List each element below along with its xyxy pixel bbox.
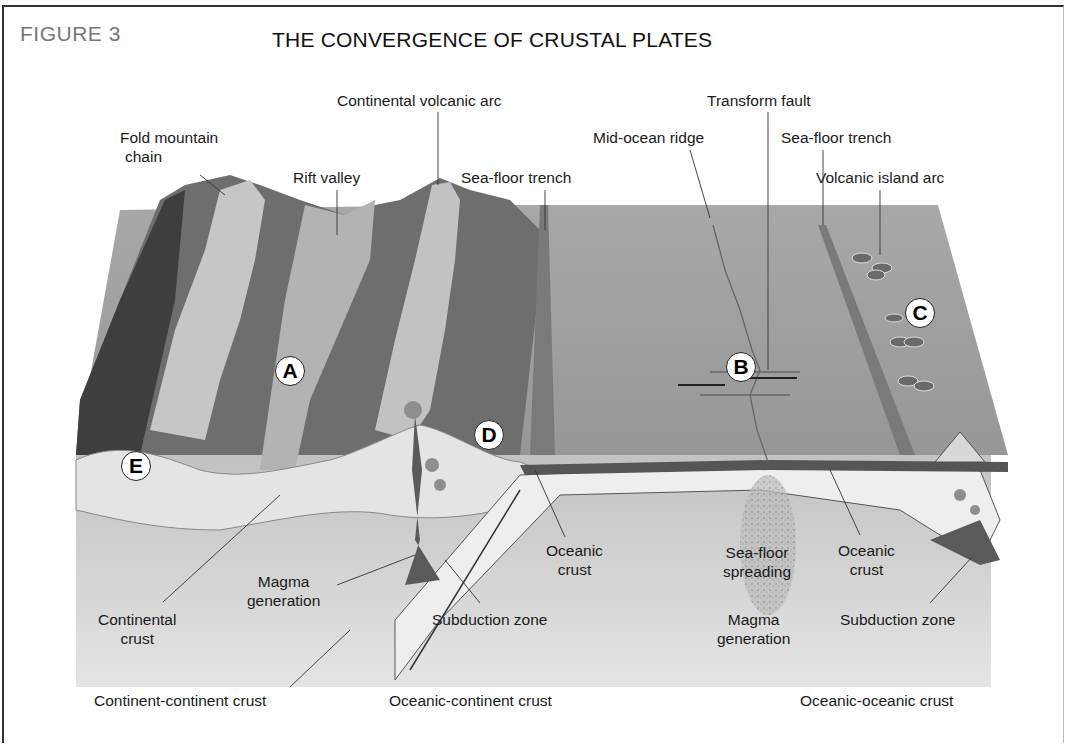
label-line: generation [717,629,790,648]
label-sea-floor-trench-left: Sea-floor trench [461,168,571,187]
marker-c: C [905,298,935,328]
label-line: crust [546,560,603,579]
marker-b: B [726,352,756,382]
label-line: Oceanic [838,541,895,560]
label-line: Fold mountain [120,128,218,147]
label-line: Magma [247,572,320,591]
label-line: Continental [98,610,176,629]
label-continental-crust: Continental crust [98,610,176,648]
label-magma-generation-left: Magma generation [247,572,320,610]
label-line: Oceanic [546,541,603,560]
label-line: generation [247,591,320,610]
label-transform-fault: Transform fault [707,91,811,110]
label-subduction-zone-right: Subduction zone [840,610,955,629]
marker-a: A [275,356,305,386]
label-mid-ocean-ridge: Mid-ocean ridge [593,128,704,147]
label-continent-continent-crust: Continent-continent crust [94,692,266,710]
label-line: chain [120,147,218,166]
label-line: Sea-floor [723,543,791,562]
marker-e: E [121,451,151,481]
label-line: crust [98,629,176,648]
label-volcanic-island-arc: Volcanic island arc [816,168,944,187]
label-line: Magma [717,610,790,629]
label-oceanic-crust-left: Oceanic crust [546,541,603,579]
label-line: spreading [723,562,791,581]
label-oceanic-oceanic-crust: Oceanic-oceanic crust [800,692,953,710]
label-sea-floor-spreading: Sea-floor spreading [723,543,791,581]
label-sea-floor-trench-right: Sea-floor trench [781,128,891,147]
label-oceanic-continent-crust: Oceanic-continent crust [389,692,552,710]
label-rift-valley: Rift valley [293,168,360,187]
label-fold-mountain-chain: Fold mountain chain [120,128,218,166]
marker-d: D [474,420,504,450]
label-magma-generation-center: Magma generation [717,610,790,648]
label-oceanic-crust-right: Oceanic crust [838,541,895,579]
label-subduction-zone-left: Subduction zone [432,610,547,629]
label-line: crust [838,560,895,579]
label-continental-volcanic-arc: Continental volcanic arc [337,91,502,110]
